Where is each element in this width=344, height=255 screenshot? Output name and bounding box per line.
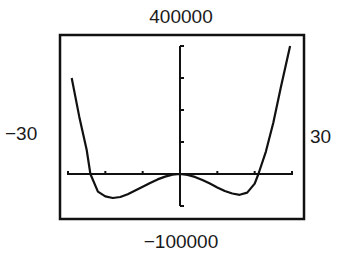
screen-frame xyxy=(60,35,304,219)
calculator-graph-screen xyxy=(0,0,344,255)
axes xyxy=(68,46,292,206)
